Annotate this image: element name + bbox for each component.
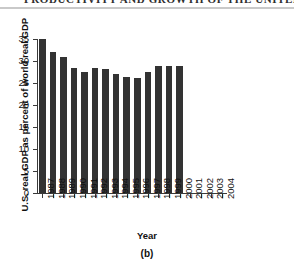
bar-1999 — [166, 66, 173, 193]
x-tick-label: 2001 — [194, 178, 203, 199]
bar-1995 — [123, 77, 130, 193]
bar-1990 — [71, 68, 78, 193]
x-axis-title: Year — [0, 230, 294, 241]
x-tick-label: 1992 — [99, 178, 108, 199]
x-tick-label: 1999 — [173, 178, 182, 199]
bar-1988 — [50, 52, 57, 193]
y-tick-label: 25 — [0, 78, 29, 87]
bar-1987 — [39, 39, 46, 193]
bar-1992 — [92, 68, 99, 193]
x-tick-label: 2004 — [226, 178, 235, 199]
bar-2000 — [176, 66, 183, 193]
y-tick-label: 15 — [0, 122, 29, 131]
bar-1997 — [145, 72, 152, 193]
bar-1996 — [134, 78, 141, 193]
y-tick-label: 30 — [0, 56, 29, 65]
bar-1991 — [81, 72, 88, 193]
x-tick-label: 1987 — [46, 178, 55, 199]
x-tick-label: 1997 — [152, 178, 161, 199]
x-tick-label: 1995 — [131, 178, 140, 199]
running-head-text: PRODUCTIVITY AND GROWTH OF THE UNITED ST… — [24, 0, 294, 5]
bar-1989 — [60, 57, 67, 193]
x-tick-label: 1998 — [162, 178, 171, 199]
x-tick-label: 2000 — [184, 178, 193, 199]
y-tick-label: 10 — [0, 144, 29, 153]
x-tick-label: 2002 — [205, 178, 214, 199]
page-running-head: PRODUCTIVITY AND GROWTH OF THE UNITED ST… — [0, 0, 294, 9]
x-tick-label: 1991 — [89, 178, 98, 199]
x-tick-label: 1994 — [120, 178, 129, 199]
x-tick-label: 1996 — [141, 178, 150, 199]
figure-bar-chart: U.S. real GDP as percent of world real G… — [0, 9, 294, 263]
bar-1993 — [102, 69, 109, 194]
x-tick-label: 1988 — [57, 178, 66, 199]
y-tick — [33, 193, 38, 194]
y-axis-title: U.S. real GDP as percent of world real G… — [19, 26, 30, 212]
figure-caption: (b) — [0, 248, 294, 259]
y-tick-label: 0 — [0, 188, 29, 197]
x-tick — [42, 194, 43, 198]
y-tick-label: 5 — [0, 166, 29, 175]
y-tick-label: 20 — [0, 100, 29, 109]
x-tick-label: 1989 — [67, 178, 76, 199]
x-tick-label: 2003 — [215, 178, 224, 199]
bar-series — [37, 39, 227, 193]
y-tick-label: 35 — [0, 34, 29, 43]
x-tick-label: 1990 — [78, 178, 87, 199]
bar-1994 — [113, 74, 120, 193]
x-tick-label: 1993 — [110, 178, 119, 199]
bar-1998 — [155, 66, 162, 193]
